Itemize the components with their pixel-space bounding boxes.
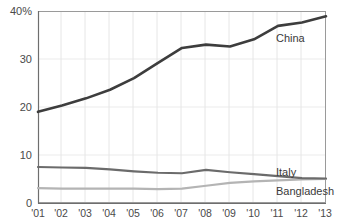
y-tick-label-40: 40% xyxy=(10,5,32,17)
y-tick-label-30: 30 xyxy=(20,53,32,65)
x-tick-label-02: '02 xyxy=(54,207,68,219)
series-label-bangladesh: Bangladesh xyxy=(276,185,334,197)
x-tick-label-13: '13 xyxy=(318,207,332,219)
chart-canvas: 40% 30 20 10 0 '01 '02 '03 '04 '05 '06 '… xyxy=(0,0,344,224)
y-tick-label-20: 20 xyxy=(20,101,32,113)
x-tick-label-10: '10 xyxy=(246,207,260,219)
x-tick-label-08: '08 xyxy=(198,207,212,219)
x-tick-label-11: '11 xyxy=(271,207,284,219)
line-chart: 40% 30 20 10 0 '01 '02 '03 '04 '05 '06 '… xyxy=(0,0,344,224)
x-tick-label-04: '04 xyxy=(102,207,116,219)
x-tick-label-01: '01 xyxy=(31,207,45,219)
x-axis-labels: '01 '02 '03 '04 '05 '06 '07 '08 '09 '10 … xyxy=(31,207,332,219)
y-tick-label-10: 10 xyxy=(20,149,32,161)
x-tick-label-12: '12 xyxy=(294,207,308,219)
x-tick-label-06: '06 xyxy=(150,207,164,219)
series-label-china: China xyxy=(276,32,306,44)
x-tick-label-03: '03 xyxy=(78,207,92,219)
series-label-italy: Italy xyxy=(276,166,297,178)
x-tick-label-05: '05 xyxy=(126,207,140,219)
y-axis-labels: 40% 30 20 10 0 xyxy=(10,5,32,209)
x-tick-label-07: '07 xyxy=(174,207,188,219)
x-tick-label-09: '09 xyxy=(222,207,236,219)
